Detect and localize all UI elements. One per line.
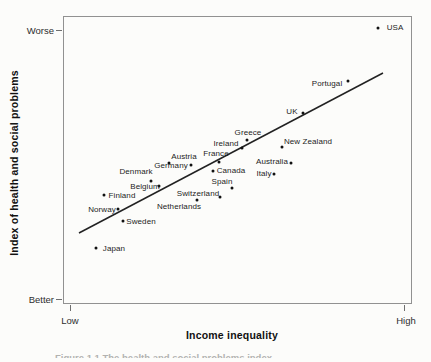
data-point-label: Denmark (119, 168, 152, 176)
data-point-dot (241, 147, 244, 150)
data-point-dot (190, 164, 193, 167)
data-point-label: Japan (103, 245, 125, 253)
data-point-dot (212, 170, 215, 173)
plot-layer: USAPortugalUKGreeceNew ZealandIrelandFra… (0, 0, 431, 362)
data-point-label: Australia (256, 158, 288, 166)
data-point-label: Netherlands (157, 203, 201, 211)
caption-fragment: Figure 1.1 The health and social problem… (55, 352, 395, 358)
data-point-label: UK (286, 108, 297, 116)
data-point-label: Ireland (213, 140, 238, 148)
data-point-dot (273, 173, 276, 176)
data-point-label: Italy (256, 170, 271, 178)
data-point-label: Belgium (130, 183, 160, 191)
figure-canvas: Index of health and social problems Inco… (0, 0, 431, 362)
data-point-label: Norway (88, 206, 116, 214)
data-point-label: Greece (235, 129, 262, 137)
data-point-dot (290, 162, 293, 165)
data-point-dot (122, 220, 125, 223)
data-point-label: Canada (217, 167, 246, 175)
data-point-label: France (203, 150, 229, 158)
data-point-label: New Zealand (284, 138, 332, 146)
data-point-dot (347, 80, 350, 83)
data-point-label: Portugal (312, 80, 343, 88)
data-point-label: Finland (109, 192, 136, 200)
data-point-label: Sweden (126, 218, 156, 226)
data-point-label: Switzerland (177, 190, 219, 198)
data-point-label: Germany (154, 162, 188, 170)
data-point-label: USA (387, 24, 404, 32)
data-point-dot (377, 27, 380, 30)
data-point-dot (231, 187, 234, 190)
data-point-dot (103, 194, 106, 197)
data-point-label: Austria (171, 153, 197, 161)
data-point-label: Spain (212, 178, 233, 186)
data-point-dot (95, 247, 98, 250)
data-point-dot (218, 161, 221, 164)
data-point-dot (302, 112, 305, 115)
data-point-dot (117, 208, 120, 211)
data-point-dot (246, 139, 249, 142)
